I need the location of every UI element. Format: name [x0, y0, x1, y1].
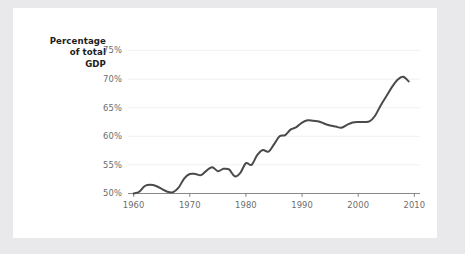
x-axis-tick-label: 1970 — [170, 200, 210, 210]
plot-area — [128, 42, 420, 198]
y-axis-tick-label: 75% — [96, 45, 122, 55]
x-axis-tick-label: 2010 — [394, 200, 434, 210]
chart-card: Percentage of total GDP 50%55%60%65%70%7… — [13, 8, 437, 238]
data-series-line — [134, 77, 409, 194]
y-axis-tick-label: 65% — [96, 103, 122, 113]
y-axis-tick-label: 60% — [96, 131, 122, 141]
y-axis-tick-label: 70% — [96, 74, 122, 84]
y-axis-title: Percentage of total GDP — [27, 36, 106, 70]
x-axis-tick-label: 1960 — [114, 200, 154, 210]
y-axis-title-line-3: GDP — [27, 59, 106, 70]
x-axis-tick-label: 2000 — [338, 200, 378, 210]
y-axis-tick-label: 55% — [96, 160, 122, 170]
x-axis-tick-label: 1990 — [282, 200, 322, 210]
y-axis-title-line-2: of total — [27, 47, 106, 58]
y-axis-title-line-1: Percentage — [27, 36, 106, 47]
line-chart-svg — [128, 42, 420, 198]
x-axis-tick-label: 1980 — [226, 200, 266, 210]
y-axis-tick-label: 50% — [96, 188, 122, 198]
chart-page: Percentage of total GDP 50%55%60%65%70%7… — [0, 0, 465, 254]
